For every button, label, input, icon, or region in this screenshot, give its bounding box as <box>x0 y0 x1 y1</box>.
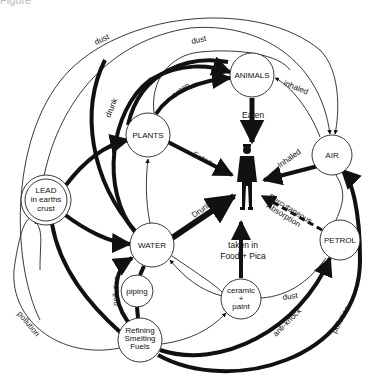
node-animals[interactable]: ANIMALS <box>230 53 274 97</box>
inhaled-to-man-label: Inhaled <box>276 147 303 169</box>
dust-ceramic-label: dust <box>282 291 299 302</box>
thick-links <box>52 60 360 371</box>
piping-label: piping <box>126 287 147 296</box>
taken-in-label-2: Food + Pica <box>220 251 266 261</box>
dust-inner-label: dust <box>191 34 208 46</box>
pollution-piping-label: pollution <box>111 276 121 306</box>
taken-in-label-1: taken in <box>228 240 258 250</box>
node-air[interactable]: AIR <box>312 135 352 175</box>
water-label: WATER <box>138 241 166 250</box>
node-lead[interactable]: LEAD in earths crust <box>21 175 71 225</box>
refining-label-3: Fuels <box>130 342 150 351</box>
plants-label: PLANTS <box>132 131 163 140</box>
lead-label-2: in earths <box>31 195 62 204</box>
dust-outer-label: dust <box>93 32 111 47</box>
eaten-to-man-label: Eaten <box>242 110 264 120</box>
anti-knock-label: anti-knock <box>271 306 304 339</box>
lead-pathways-diagram: ANIMALS AIR PLANTS LEAD in earths crust … <box>0 0 380 384</box>
human-figure-icon <box>237 144 257 210</box>
drunk-label: drunk <box>104 96 120 119</box>
node-ceramic-paint[interactable]: ceramic + paint <box>221 279 261 319</box>
inhaled-label: inhaled <box>282 79 309 97</box>
node-piping[interactable]: piping <box>121 275 153 307</box>
animals-label: ANIMALS <box>234 71 269 80</box>
node-refining[interactable]: Refining Smelting Fuels <box>118 318 162 362</box>
ceramic-label-3: paint <box>232 302 250 311</box>
node-petrol[interactable]: PETROL <box>320 220 360 260</box>
air-label: AIR <box>325 151 339 160</box>
petrol-label: PETROL <box>324 236 357 245</box>
node-water[interactable]: WATER <box>130 223 174 267</box>
eaten-small-label: eaten <box>170 81 192 100</box>
lead-label-1: LEAD <box>36 186 57 195</box>
plants-eaten-label: Eaten <box>191 150 214 168</box>
pollution-left-label: pollution <box>15 310 41 339</box>
lead-label-3: crust <box>37 204 55 213</box>
node-plants[interactable]: PLANTS <box>126 113 170 157</box>
pollution-right-label: pollution <box>330 304 352 335</box>
